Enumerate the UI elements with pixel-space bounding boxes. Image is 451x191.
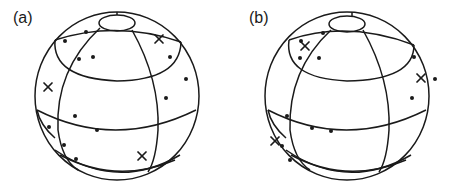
polar-cap — [329, 16, 365, 32]
dot-marker — [63, 39, 67, 43]
dot-marker — [47, 125, 51, 129]
dot-marker — [184, 77, 188, 81]
dot-marker — [73, 114, 77, 118]
dot-marker — [329, 129, 333, 133]
dot-marker — [433, 77, 437, 81]
sphere-outline — [35, 12, 199, 180]
dot-marker — [280, 144, 284, 148]
data-marks-b — [271, 31, 437, 162]
cross-marker — [301, 42, 309, 50]
bottom-arc-2 — [286, 150, 411, 172]
dot-marker — [321, 31, 325, 35]
data-marks-a — [44, 30, 188, 161]
dot-marker — [168, 55, 172, 59]
dot-marker — [91, 55, 95, 59]
meridian-left — [290, 30, 331, 170]
dot-marker — [164, 96, 168, 100]
dot-marker — [317, 56, 321, 60]
dot-marker — [77, 57, 81, 61]
dot-marker — [310, 126, 314, 130]
upper-ring-front — [289, 40, 414, 81]
cross-marker — [44, 83, 52, 91]
sphere-diagram-b — [226, 0, 451, 191]
meridian-right — [363, 30, 389, 172]
dot-marker — [288, 158, 292, 162]
polar-cap — [99, 15, 135, 31]
dot-marker — [298, 56, 302, 60]
sphere-outline — [265, 12, 429, 180]
meridian-left — [58, 28, 100, 170]
panel-b: (b) — [226, 0, 451, 191]
cross-marker — [138, 152, 146, 160]
dot-marker — [410, 96, 414, 100]
dot-marker — [285, 114, 289, 118]
dot-marker — [84, 30, 88, 34]
dot-marker — [412, 55, 416, 59]
cross-marker — [417, 74, 425, 82]
dot-marker — [95, 128, 99, 132]
band-upper-line — [37, 110, 196, 130]
dot-marker — [74, 157, 78, 161]
bottom-arc-2 — [55, 150, 180, 172]
panel-a: (a) — [0, 0, 225, 191]
sphere-diagram-a — [0, 0, 225, 191]
band-upper-line — [268, 110, 426, 130]
meridian-right — [132, 30, 158, 172]
dot-marker — [62, 143, 66, 147]
